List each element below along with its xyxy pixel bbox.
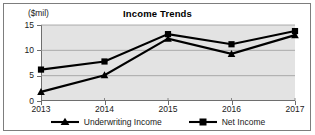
data-point-marker <box>292 28 298 34</box>
chart-figure: ($mil) Income Trends 051015 201320142015… <box>0 0 315 135</box>
x-axis-tick-label: 2015 <box>148 104 188 114</box>
y-axis-tick-label: 5 <box>10 70 34 80</box>
x-axis-tick-label: 2013 <box>21 104 61 114</box>
x-axis-tick-label: 2016 <box>212 104 252 114</box>
series-line <box>41 35 295 92</box>
y-axis-tick-label: 15 <box>10 20 34 30</box>
y-axis-tick-label: 10 <box>10 45 34 55</box>
legend-entry[interactable]: Net Income <box>188 117 265 127</box>
chart-legend: Underwriting IncomeNet Income <box>0 117 315 127</box>
legend-square-marker-icon <box>188 117 218 127</box>
x-axis-tick-mark <box>232 101 233 105</box>
x-axis-tick-mark <box>105 101 106 105</box>
y-axis-tick-mark <box>37 50 41 51</box>
legend-label: Underwriting Income <box>84 117 162 127</box>
plot-canvas <box>41 25 295 101</box>
legend-triangle-marker-icon <box>50 117 80 127</box>
data-point-marker <box>38 66 44 72</box>
legend-label: Net Income <box>222 117 265 127</box>
x-axis-tick-label: 2014 <box>85 104 125 114</box>
chart-title: Income Trends <box>0 8 315 19</box>
legend-entry[interactable]: Underwriting Income <box>50 117 162 127</box>
data-point-marker <box>165 31 171 37</box>
y-axis-tick-mark <box>37 76 41 77</box>
x-axis-tick-mark <box>41 101 42 105</box>
x-axis-tick-mark <box>295 101 296 105</box>
y-axis-tick-mark <box>37 25 41 26</box>
x-axis-tick-mark <box>168 101 169 105</box>
data-point-marker <box>228 41 234 47</box>
x-axis-tick-label: 2017 <box>275 104 315 114</box>
data-point-marker <box>101 58 107 64</box>
